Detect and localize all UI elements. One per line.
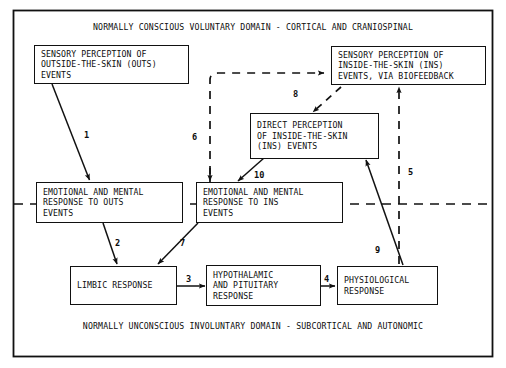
- node-line: EMOTIONAL AND MENTAL: [203, 187, 342, 198]
- edge-label-6: 6: [192, 132, 197, 142]
- edge-8-line: [313, 87, 341, 112]
- node-line: RESPONSE TO OUTS: [43, 197, 182, 208]
- edge-label-5: 5: [408, 167, 413, 177]
- node-line: DIRECT PERCEPTION: [257, 120, 378, 131]
- diagram-canvas: NORMALLY CONSCIOUS VOLUNTARY DOMAIN - CO…: [0, 0, 506, 368]
- node-line: RESPONSE: [213, 291, 320, 302]
- node-line: RESPONSE: [344, 286, 437, 297]
- node-line: AND PITUITARY: [213, 280, 320, 291]
- node-emotional-mental-response-outs[interactable]: EMOTIONAL AND MENTAL RESPONSE TO OUTS EV…: [36, 182, 183, 223]
- edge-label-7: 7: [180, 238, 185, 248]
- edge-7-line: [158, 223, 198, 264]
- edge-label-8: 8: [293, 89, 298, 99]
- node-line: EMOTIONAL AND MENTAL: [43, 187, 182, 198]
- node-line: LIMBIC RESPONSE: [77, 280, 176, 291]
- node-line: RESPONSE TO INS: [203, 197, 342, 208]
- edge-9-line: [366, 160, 403, 265]
- edge-label-1: 1: [84, 130, 89, 140]
- node-line: EVENTS: [41, 70, 188, 81]
- edge-label-9: 9: [375, 245, 380, 255]
- node-direct-perception-ins[interactable]: DIRECT PERCEPTION OF INSIDE-THE-SKIN (IN…: [250, 113, 379, 159]
- node-emotional-mental-response-ins[interactable]: EMOTIONAL AND MENTAL RESPONSE TO INS EVE…: [196, 182, 343, 223]
- node-line: (INS) EVENTS: [257, 141, 378, 152]
- edge-label-2: 2: [115, 238, 120, 248]
- bottom-domain-label: NORMALLY UNCONSCIOUS INVOLUNTARY DOMAIN …: [0, 321, 506, 331]
- node-line: SENSORY PERCEPTION OF: [338, 50, 485, 61]
- node-line: SENSORY PERCEPTION OF: [41, 49, 188, 60]
- edge-label-3: 3: [186, 274, 191, 284]
- node-line: PHYSIOLOGICAL: [344, 275, 437, 286]
- node-line: HYPOTHALAMIC: [213, 270, 320, 281]
- node-line: INSIDE-THE-SKIN (INS): [338, 60, 485, 71]
- node-sensory-perception-ins-biofeedback[interactable]: SENSORY PERCEPTION OF INSIDE-THE-SKIN (I…: [331, 46, 486, 85]
- node-limbic-response[interactable]: LIMBIC RESPONSE: [70, 266, 177, 305]
- node-line: OUTSIDE-THE-SKIN (OUTS): [41, 59, 188, 70]
- edge-label-10: 10: [254, 170, 264, 180]
- top-domain-label: NORMALLY CONSCIOUS VOLUNTARY DOMAIN - CO…: [0, 22, 506, 32]
- node-line: OF INSIDE-THE-SKIN: [257, 131, 378, 142]
- edge-label-4: 4: [324, 274, 329, 284]
- node-line: EVENTS, VIA BIOFEEDBACK: [338, 71, 485, 82]
- node-physiological-response[interactable]: PHYSIOLOGICAL RESPONSE: [337, 266, 438, 305]
- node-line: EVENTS: [43, 208, 182, 219]
- node-hypothalamic-pituitary-response[interactable]: HYPOTHALAMIC AND PITUITARY RESPONSE: [206, 265, 321, 306]
- node-sensory-perception-outs[interactable]: SENSORY PERCEPTION OF OUTSIDE-THE-SKIN (…: [34, 45, 189, 84]
- node-line: EVENTS: [203, 208, 342, 219]
